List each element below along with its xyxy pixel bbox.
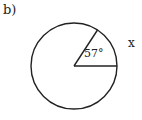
part-label: b) [3,2,16,17]
circle-diagram [0,0,142,120]
angle-label: 57° [84,47,104,60]
arc-label: x [128,36,135,50]
